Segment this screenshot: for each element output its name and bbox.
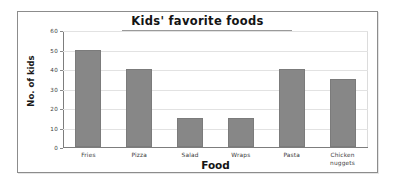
chart-frame: Kids' favorite foods No. of kids 0102030… xyxy=(17,11,378,173)
bar[interactable] xyxy=(279,69,305,147)
bar[interactable] xyxy=(126,69,152,147)
y-axis-tick-label: 20 xyxy=(50,106,58,112)
bar-slot xyxy=(165,31,216,147)
bar[interactable] xyxy=(75,50,101,148)
y-axis-tick-label: 10 xyxy=(50,126,58,132)
plot-area: 0102030405060 xyxy=(63,31,368,148)
bar[interactable] xyxy=(228,118,254,147)
bar-slot xyxy=(266,31,317,147)
bar-slot xyxy=(63,31,114,147)
y-axis-tick-label: 60 xyxy=(50,28,58,34)
x-axis-title: Food xyxy=(63,159,368,171)
chart-title: Kids' favorite foods xyxy=(18,14,377,28)
bar[interactable] xyxy=(177,118,203,147)
bar-slot xyxy=(317,31,368,147)
y-axis-title: No. of kids xyxy=(26,41,36,121)
y-axis-tick-label: 50 xyxy=(50,48,58,54)
gridline xyxy=(63,148,368,149)
bar-slot xyxy=(114,31,165,147)
bar-slot xyxy=(216,31,267,147)
y-axis-tick-label: 30 xyxy=(50,87,58,93)
y-axis-tick-label: 0 xyxy=(54,145,58,151)
y-axis-tick-label: 40 xyxy=(50,67,58,73)
y-axis-tick xyxy=(60,148,63,149)
bar[interactable] xyxy=(330,79,356,147)
